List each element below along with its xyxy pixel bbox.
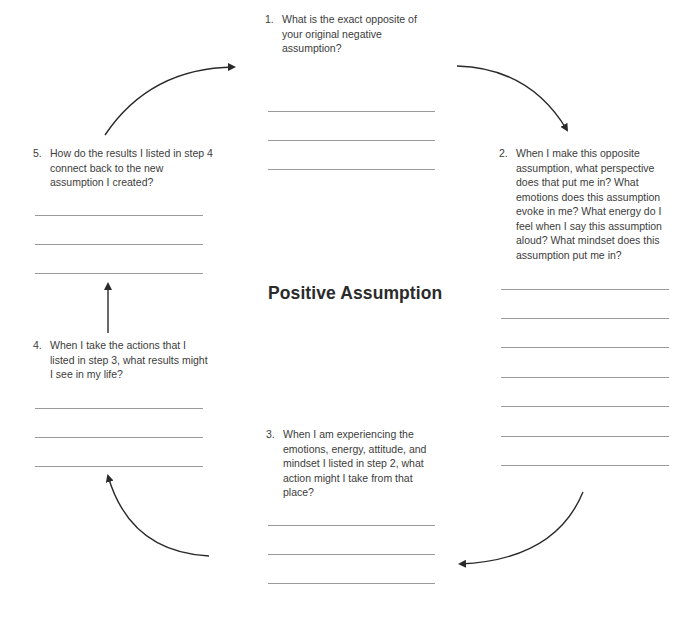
arrow-step1-to-step2 xyxy=(457,66,567,130)
arrow-step5-to-step1 xyxy=(105,67,234,135)
arrow-step3-to-step4 xyxy=(108,476,209,556)
cycle-arrows xyxy=(0,0,694,638)
arrow-step2-to-step3 xyxy=(460,492,583,564)
